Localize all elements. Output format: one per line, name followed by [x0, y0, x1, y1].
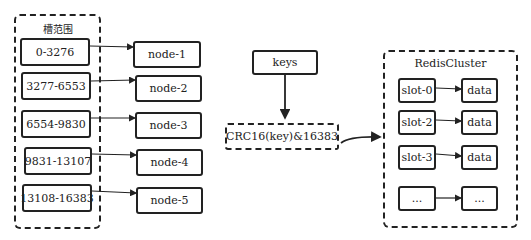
slot-box: ... — [398, 186, 436, 211]
node-box: node-5 — [136, 187, 203, 214]
data-box: data — [461, 78, 498, 103]
slot-box: slot-2 — [398, 110, 436, 135]
data-box: data — [461, 110, 498, 135]
slot-range-box: 13108-16383 — [22, 184, 92, 212]
slot-box: slot-3 — [398, 145, 436, 170]
node-box: node-4 — [136, 149, 203, 176]
slot-range-box: 9831-13107 — [24, 147, 92, 175]
data-box: data — [461, 145, 498, 170]
slot-box: slot-0 — [398, 78, 436, 103]
node-box: node-1 — [133, 41, 201, 68]
slot-range-box: 6554-9830 — [21, 110, 91, 138]
redis-cluster-title: RedisCluster — [383, 57, 518, 70]
keys-box: keys — [252, 50, 318, 75]
node-box: node-3 — [135, 112, 202, 139]
crc-to-cluster-arrow — [341, 137, 380, 143]
slot-range-box: 3277-6553 — [21, 72, 91, 100]
node-box: node-2 — [135, 75, 202, 102]
slot-range-title: 槽范围 — [14, 21, 101, 36]
data-box: ... — [461, 186, 498, 211]
slot-range-box: 0-3276 — [20, 38, 90, 66]
crc16-function-box: CRC16(key)&16383 — [225, 123, 339, 150]
